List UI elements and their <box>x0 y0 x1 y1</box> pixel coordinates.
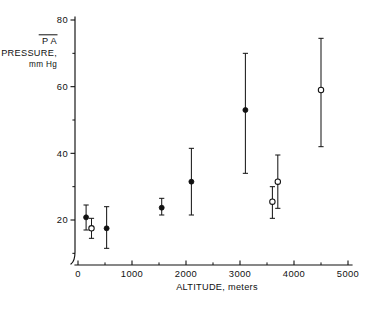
x-tick-label-5000: 5000 <box>337 268 359 279</box>
y-tick-label-60: 60 <box>57 81 68 92</box>
data-point-filled-2100 <box>189 179 194 184</box>
data-point-filled-150 <box>84 215 89 220</box>
figure-root: 20406080 010002000300040005000 P APRESSU… <box>0 0 368 314</box>
y-axis-title-line-1: P A <box>42 36 58 46</box>
x-axis-ticks <box>78 261 348 266</box>
x-axis-title-text: ALTITUDE, meters <box>176 282 258 292</box>
x-tick-label-4000: 4000 <box>283 268 305 279</box>
error-bars <box>84 38 324 248</box>
data-point-open-4500 <box>318 87 323 92</box>
data-point-filled-530 <box>104 226 109 231</box>
y-axis-ticks <box>71 20 76 253</box>
y-tick-label-20: 20 <box>57 214 68 225</box>
data-point-filled-3100 <box>243 108 248 113</box>
x-tick-label-2000: 2000 <box>175 268 197 279</box>
y-tick-label-40: 40 <box>57 148 68 159</box>
caption-strip <box>8 300 128 308</box>
scatter-plot: 20406080 010002000300040005000 P APRESSU… <box>0 0 368 314</box>
data-point-open-3700 <box>275 179 280 184</box>
plot-axes <box>71 17 352 265</box>
data-point-filled-1550 <box>159 205 164 210</box>
x-tick-label-1000: 1000 <box>121 268 143 279</box>
data-point-open-250 <box>89 226 94 231</box>
y-axis-title-line-2: PRESSURE, <box>1 48 57 58</box>
x-axis-tick-labels: 010002000300040005000 <box>75 268 359 279</box>
x-tick-label-3000: 3000 <box>229 268 251 279</box>
y-axis-tick-labels: 20406080 <box>57 14 68 225</box>
y-axis-line <box>71 17 75 264</box>
y-axis-title: P APRESSURE,mm Hg <box>1 35 57 69</box>
y-axis-title-line-3: mm Hg <box>29 60 57 69</box>
data-point-open-3600 <box>270 199 275 204</box>
x-axis-title: ALTITUDE, meters <box>176 282 258 292</box>
x-tick-label-0: 0 <box>75 268 81 279</box>
y-tick-label-80: 80 <box>57 14 68 25</box>
data-markers <box>84 87 324 231</box>
